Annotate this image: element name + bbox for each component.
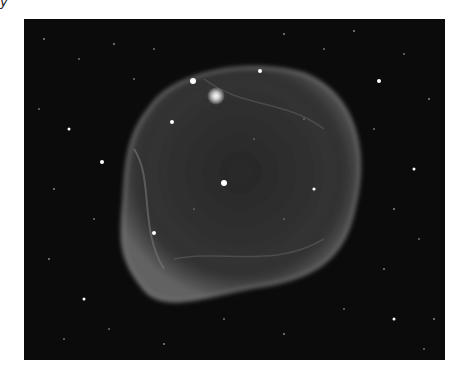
nebula-photo	[24, 19, 445, 360]
nebula-image	[24, 19, 445, 360]
stray-glyph: y	[0, 0, 8, 9]
